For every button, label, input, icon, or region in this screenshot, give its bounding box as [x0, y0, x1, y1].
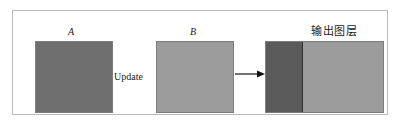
operation-label: Update [114, 72, 143, 82]
block-b [156, 41, 234, 113]
block-a-label: A [68, 27, 74, 37]
output-light-region [303, 42, 383, 112]
arrow-right-icon [235, 69, 265, 79]
output-layer-label: 输出图层 [311, 26, 357, 37]
block-a [35, 41, 113, 113]
figure-frame: A Update B 输出图层 [12, 10, 388, 115]
block-b-label: B [190, 27, 196, 37]
output-dark-region [266, 42, 303, 112]
figure-page: A Update B 输出图层 [0, 0, 400, 125]
output-layer-block [265, 41, 384, 113]
